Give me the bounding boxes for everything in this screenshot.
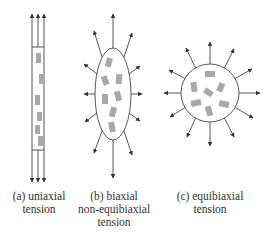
caption-b-line-2: non-equibiaxial [70, 203, 158, 216]
panel-a-particles [35, 53, 44, 146]
caption-c-line-2: tension [160, 203, 260, 216]
caption-a-line-2: tension [0, 203, 78, 216]
caption-b: (b) biaxial non-equibiaxial tension [70, 190, 158, 229]
panel-b-particles [101, 57, 123, 132]
caption-c-line-1: (c) equibiaxial [160, 190, 260, 203]
panel-b-biaxial [84, 14, 142, 178]
panel-c-particles [190, 71, 229, 117]
caption-b-line-1: (b) biaxial [70, 190, 158, 203]
caption-a: (a) uniaxial tension [0, 190, 78, 216]
caption-a-line-1: (a) uniaxial [0, 190, 78, 203]
caption-c: (c) equibiaxial tension [160, 190, 260, 216]
caption-b-line-3: tension [70, 216, 158, 229]
